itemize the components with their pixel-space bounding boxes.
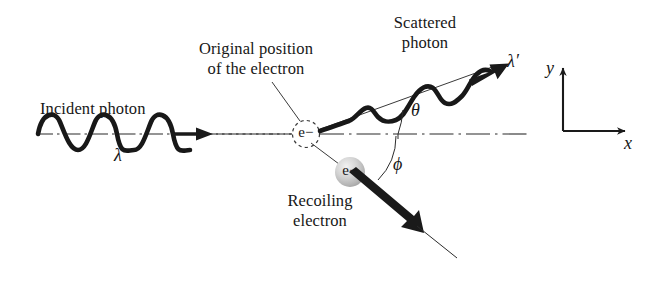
incident-photon-arrow (171, 128, 213, 141)
x-axis-label: x (624, 134, 632, 153)
theta-angle-label: θ (411, 101, 420, 120)
recoiling-electron-leader-line (311, 143, 339, 164)
scattered-wavelength-label: λ′ (507, 52, 519, 71)
incident-wavelength-label: λ (114, 146, 122, 165)
scattered-photon-wave (320, 70, 490, 131)
coordinate-axes (563, 68, 625, 131)
recoiling-electron-label-line2: electron (250, 212, 390, 230)
compton-scattering-figure: Incident photon λ Original position of t… (0, 0, 658, 282)
original-position-label-line2: of the electron (176, 60, 336, 78)
scattered-photon-label-line1: Scattered (370, 14, 480, 32)
phi-angle-label: ϕ (393, 155, 402, 174)
scattered-photon-label-line2: photon (370, 34, 480, 52)
recoil-electron-symbol: e− (335, 162, 365, 178)
incident-photon-label: Incident photon (40, 100, 210, 118)
original-position-leader-line (272, 82, 300, 121)
y-axis-label: y (546, 59, 554, 78)
origin-electron-symbol: e− (291, 124, 321, 140)
original-position-label-line1: Original position (176, 40, 336, 58)
recoiling-electron-label-line1: Recoiling (250, 192, 390, 210)
